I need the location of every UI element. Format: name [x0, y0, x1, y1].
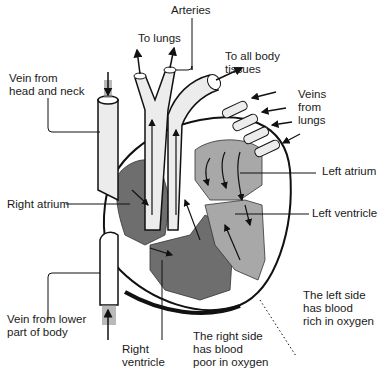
label-right-atrium: Right atrium — [7, 198, 69, 211]
label-vein-from-lower-part-of-body: Vein from lower part of body — [7, 313, 86, 339]
label-right-ventricle: Right ventricle — [122, 343, 165, 369]
label-arteries: Arteries — [171, 4, 211, 17]
label-left-side-note: The left side has blood rich in oxygen — [303, 289, 374, 328]
label-right-side-note: The right side has blood poor in oxygen — [193, 330, 268, 369]
superior-vena-cava — [98, 100, 118, 200]
label-veins-from-lungs: Veins from lungs — [298, 88, 326, 127]
left-atrium-shape — [195, 140, 262, 200]
label-left-atrium: Left atrium — [322, 165, 376, 178]
label-to-all-body-tissues: To all body tissues — [225, 50, 280, 76]
label-left-ventricle: Left ventricle — [312, 207, 377, 220]
label-to-lungs: To lungs — [138, 32, 181, 45]
heart-diagram: Arteries To lungs To all body tissues Ve… — [0, 0, 382, 375]
inferior-vena-cava — [100, 232, 118, 305]
label-vein-from-head-and-neck: Vein from head and neck — [9, 72, 84, 98]
